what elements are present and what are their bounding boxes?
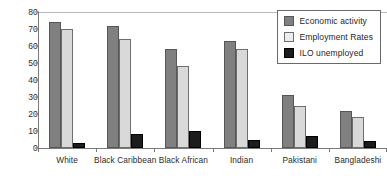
x-axis-tick-label: Pakistani bbox=[282, 155, 317, 165]
bar-group bbox=[154, 12, 212, 148]
y-axis-tick-mark bbox=[35, 29, 39, 30]
x-axis-tick-label: Indian bbox=[230, 155, 253, 165]
bar-group-bars bbox=[213, 12, 271, 148]
legend-swatch-icon bbox=[284, 48, 294, 58]
x-axis-tick-mark bbox=[213, 148, 214, 152]
bar bbox=[294, 106, 306, 149]
bar bbox=[165, 49, 177, 148]
legend-item[interactable]: Economic activity bbox=[284, 16, 373, 26]
bar-group-bars bbox=[96, 12, 154, 148]
bar-group-bars bbox=[154, 12, 212, 148]
legend-swatch-icon bbox=[284, 32, 294, 42]
bar-group-bars bbox=[38, 12, 96, 148]
bar bbox=[282, 95, 294, 148]
bar bbox=[177, 66, 189, 148]
bar-group bbox=[213, 12, 271, 148]
legend-swatch-icon bbox=[284, 16, 294, 26]
x-axis-tick-mark bbox=[329, 148, 330, 152]
bar bbox=[224, 41, 236, 148]
bar bbox=[61, 29, 73, 148]
bar bbox=[248, 140, 260, 149]
bar bbox=[189, 131, 201, 148]
bar bbox=[49, 22, 61, 148]
bar bbox=[236, 49, 248, 148]
chart-legend: Economic activityEmployment RatesILO une… bbox=[277, 10, 381, 64]
bar bbox=[107, 26, 119, 148]
x-axis-tick-mark bbox=[154, 148, 155, 152]
x-axis-tick-mark bbox=[96, 148, 97, 152]
legend-item-label: Employment Rates bbox=[300, 32, 373, 42]
x-axis-tick-mark bbox=[271, 148, 272, 152]
legend-item-label: ILO unemployed bbox=[300, 48, 364, 58]
bar bbox=[352, 117, 364, 148]
bar-group bbox=[38, 12, 96, 148]
y-axis-tick-mark bbox=[35, 12, 39, 13]
x-axis-tick-label: Black African bbox=[159, 155, 208, 165]
bar bbox=[73, 143, 85, 148]
legend-item-label: Economic activity bbox=[300, 16, 367, 26]
y-axis-tick-mark bbox=[35, 131, 39, 132]
x-axis-tick-label: White bbox=[56, 155, 78, 165]
y-axis-tick-mark bbox=[35, 97, 39, 98]
x-axis-tick-label: Bangladeshi bbox=[335, 155, 382, 165]
y-axis-tick-mark bbox=[35, 114, 39, 115]
bar bbox=[306, 136, 318, 148]
legend-item[interactable]: ILO unemployed bbox=[284, 48, 373, 58]
y-axis-tick-mark bbox=[35, 63, 39, 64]
bar bbox=[364, 141, 376, 148]
bar-chart: Percentage Economic activityEmployment R… bbox=[0, 0, 387, 179]
bar bbox=[119, 39, 131, 148]
bar-group bbox=[96, 12, 154, 148]
x-axis-tick-label: Black Caribbean bbox=[94, 155, 156, 165]
y-axis-tick-mark bbox=[35, 80, 39, 81]
x-axis-tick-mark bbox=[38, 148, 39, 152]
bar bbox=[131, 134, 143, 148]
legend-item[interactable]: Employment Rates bbox=[284, 32, 373, 42]
y-axis-tick-mark bbox=[35, 46, 39, 47]
bar bbox=[340, 111, 352, 148]
